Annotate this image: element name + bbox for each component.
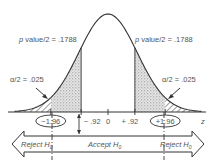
alpha-arrow-right	[168, 88, 180, 99]
p-value-label-left: p value/2 = .1788	[18, 35, 77, 44]
tick-label: − .92	[84, 117, 101, 126]
tick-label: −1.96	[41, 117, 60, 126]
z-axis-label: z	[200, 117, 205, 126]
p-value-label-right: p value/2 = .1788	[134, 35, 193, 44]
hatch-left-shape	[15, 98, 51, 112]
reject-region-right: Reject H0	[160, 140, 192, 150]
alpha-arrow-left	[36, 88, 48, 99]
tick-label: +1.96	[156, 117, 175, 126]
accept-region: Accept H0	[87, 140, 121, 150]
alpha-region-right	[165, 98, 201, 112]
alpha-region-left	[15, 98, 51, 112]
tick-label: 0	[106, 117, 110, 126]
alpha-label-right: α/2 = .025	[162, 75, 196, 84]
alpha-label-left: α/2 = .025	[10, 75, 44, 84]
normal-distribution-diagram: p value/2 = .1788 p value/2 = .1788 α/2 …	[0, 0, 216, 164]
hatch-right-shape	[165, 98, 201, 112]
reject-region-left: Reject H0	[21, 140, 53, 150]
tick-label: + .92	[121, 117, 138, 126]
